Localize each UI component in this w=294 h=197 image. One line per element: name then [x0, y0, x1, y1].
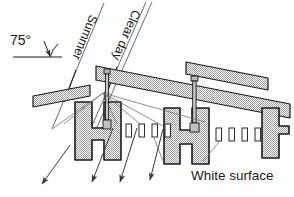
post-left-base: [103, 120, 111, 129]
post-right-cap: [191, 76, 198, 81]
white-surface-block: [242, 128, 248, 141]
left-h-mullion: [75, 102, 121, 160]
ray-label-clearday-group: Clear day: [109, 8, 143, 63]
post-right-base: [190, 123, 199, 132]
diagram-canvas: 75° Summer Clear day: [0, 0, 294, 197]
post-left-cap: [104, 69, 110, 74]
ray-label-clearday: Clear day: [109, 8, 143, 63]
ray-label-summer-group: Summer: [70, 13, 101, 62]
ray-label-summer: Summer: [70, 13, 101, 62]
white-surface-block: [126, 124, 132, 137]
white-surface-block: [139, 124, 145, 137]
white-surface-block: [216, 128, 222, 141]
angle-arc: [50, 44, 58, 57]
light-shelf-section-svg: 75° Summer Clear day: [0, 0, 294, 197]
post-right-shaft: [193, 81, 196, 123]
left-h-profile: [75, 102, 121, 160]
white-surface-label: White surface: [191, 168, 274, 183]
white-surface-group-right: [216, 128, 261, 141]
white-surface-block: [165, 124, 171, 137]
white-surface-block: [152, 124, 158, 137]
angle-arrow: [44, 41, 50, 56]
white-surface-block: [255, 128, 261, 141]
angle-label: 75°: [10, 32, 31, 48]
down-ray-4: [42, 145, 70, 184]
white-surface-block: [229, 128, 235, 141]
